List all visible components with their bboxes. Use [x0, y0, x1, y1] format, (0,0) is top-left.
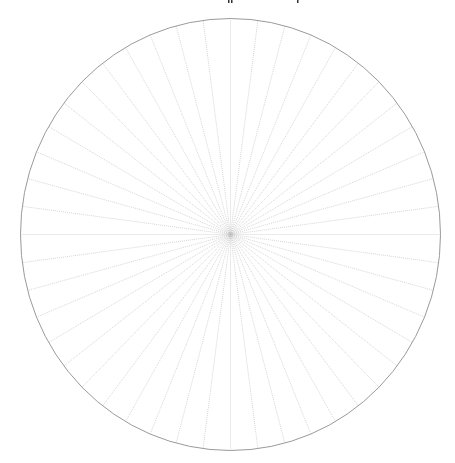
radial-spoke — [231, 235, 413, 343]
radial-spoke — [231, 82, 379, 235]
radial-spoke — [64, 235, 231, 366]
radial-spoke — [82, 235, 230, 388]
radial-spoke — [231, 47, 336, 234]
radial-spokes — [21, 19, 441, 451]
radial-spoke — [231, 179, 434, 235]
radial-spoke — [176, 26, 230, 235]
radial-spoke — [203, 20, 230, 234]
radial-spoke — [126, 235, 231, 422]
radial-spoke — [64, 103, 231, 234]
radial-spoke — [231, 26, 285, 235]
radial-spoke — [231, 103, 398, 234]
radial-spoke — [150, 235, 230, 435]
radial-spoke — [231, 235, 425, 318]
radial-spoke — [231, 20, 258, 234]
radial-spoke — [203, 235, 230, 449]
radial-spoke — [231, 235, 258, 449]
radial-spoke — [231, 127, 413, 235]
radial-spoke — [28, 179, 231, 235]
radial-spoke — [82, 82, 230, 235]
radial-spoke — [231, 35, 311, 235]
radial-spoke — [231, 235, 336, 422]
radial-spoke — [49, 127, 231, 235]
radial-spoke — [231, 235, 434, 291]
text-descender-fragment — [297, 0, 299, 3]
radial-spoke — [231, 235, 285, 444]
radial-spoke — [231, 235, 439, 263]
radial-spoke — [231, 235, 398, 366]
radial-spoke — [36, 152, 230, 235]
radial-spoke — [49, 235, 231, 343]
text-descender-fragment — [231, 0, 233, 3]
radial-spoke — [231, 206, 439, 234]
radial-spoke — [126, 47, 231, 234]
clipped-heading-fragment — [228, 0, 299, 3]
radial-spoke — [176, 235, 230, 444]
radial-spoke — [150, 35, 230, 235]
radial-spoke — [231, 152, 425, 235]
radial-spoke — [231, 235, 311, 435]
radial-spoke — [231, 235, 379, 388]
radial-spoke — [22, 206, 230, 234]
radial-grid-diagram — [0, 0, 455, 463]
radial-spoke — [36, 235, 230, 318]
radial-spoke — [22, 235, 230, 263]
text-descender-fragment — [228, 0, 230, 3]
radial-spoke — [28, 235, 231, 291]
